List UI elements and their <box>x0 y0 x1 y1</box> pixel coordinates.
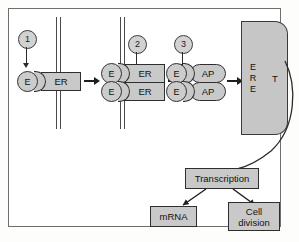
figure-estrogen-receptor-pathway: 1 /* positioned below via style attr fal… <box>0 0 299 242</box>
arrow-stage1-to-stage2 <box>84 80 95 82</box>
step-number-3: 3 <box>174 35 193 54</box>
estrogen-ligand-stage2-bottom-label: E <box>108 87 114 97</box>
estrogen-ligand-stage1-label: E <box>24 77 30 87</box>
ap-cofactor-top: AP <box>190 64 226 83</box>
estrogen-ligand-stage3-bottom: E <box>166 81 187 102</box>
estrogen-ligand-stage3-top-label: E <box>173 69 179 79</box>
step-number-1: 1 <box>18 30 37 49</box>
step-1-arrow-stem <box>26 47 27 64</box>
ere-response-element: E R E <box>241 21 265 135</box>
step-number-2: 2 <box>128 35 147 54</box>
estrogen-receptor-stage2-bottom-label: ER <box>138 86 151 97</box>
cell-division-line1: Cell <box>246 206 262 217</box>
ap-cofactor-top-label: AP <box>202 68 215 79</box>
arrow-stage3-to-dna <box>227 80 238 82</box>
estrogen-ligand-stage3-bottom-label: E <box>173 87 179 97</box>
estrogen-receptor-stage1-label: ER <box>54 76 67 87</box>
arrow-transcription-to-mrna <box>183 189 206 205</box>
mrna-box: mRNA <box>150 206 197 227</box>
estrogen-receptor-stage2-top-label: ER <box>138 68 151 79</box>
cell-division-line2: division <box>238 217 270 228</box>
estrogen-receptor-stage2-top: ER <box>125 64 165 83</box>
ere-letter-2: R <box>250 73 257 84</box>
ere-letters-stack: E R E <box>250 62 257 95</box>
estrogen-ligand-stage1: E <box>17 71 38 92</box>
estrogen-receptor-stage2-bottom: ER <box>125 82 165 101</box>
target-gene-region: T <box>263 21 288 135</box>
cell-division-box: Cell division <box>228 202 280 231</box>
ere-letter-3: E <box>250 84 257 95</box>
estrogen-ligand-stage2-top-label: E <box>108 69 114 79</box>
transcription-label: Transcription <box>195 173 250 184</box>
step-1-arrow-head <box>23 63 29 68</box>
step-number-2-label: 2 <box>135 40 140 49</box>
transcription-box: Transcription <box>185 168 259 189</box>
estrogen-receptor-stage1: ER <box>41 72 81 91</box>
ap-cofactor-bottom: AP <box>190 82 226 101</box>
ere-letter-1: E <box>250 62 257 73</box>
mrna-label: mRNA <box>160 211 188 222</box>
figure-frame: 1 /* positioned below via style attr fal… <box>8 8 281 227</box>
step-number-3-label: 3 <box>181 40 186 49</box>
estrogen-ligand-stage2-bottom: E <box>101 81 122 102</box>
target-gene-label: T <box>272 73 278 84</box>
ap-cofactor-bottom-label: AP <box>202 86 215 97</box>
step-number-1-label: 1 <box>25 35 30 44</box>
